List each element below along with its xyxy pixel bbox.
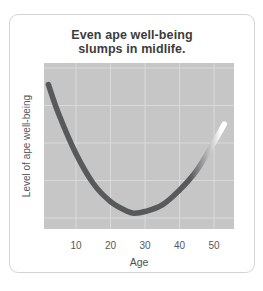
chart-title: Even ape well-being slumps in midlife. bbox=[34, 28, 230, 56]
chart-title-line-1: Even ape well-being bbox=[34, 28, 230, 42]
chart-title-line-2: slumps in midlife. bbox=[34, 42, 230, 56]
x-tick-label: 10 bbox=[70, 240, 81, 251]
x-tick-label: 30 bbox=[139, 240, 150, 251]
plot-area bbox=[44, 63, 234, 229]
wellbeing-chart bbox=[44, 63, 234, 229]
x-tick-label: 50 bbox=[208, 240, 219, 251]
x-axis-ticks: 1020304050 bbox=[44, 240, 234, 253]
x-tick-label: 40 bbox=[174, 240, 185, 251]
x-tick-label: 20 bbox=[105, 240, 116, 251]
chart-card: Even ape well-being slumps in midlife. L… bbox=[9, 14, 255, 273]
y-axis-label: Level of ape well-being bbox=[21, 95, 32, 197]
x-axis-label: Age bbox=[44, 256, 234, 268]
